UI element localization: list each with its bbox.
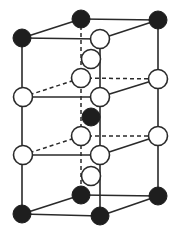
atom-dark-top-front-left bbox=[13, 29, 31, 47]
atom-light-interior-upper bbox=[82, 50, 101, 69]
atom-light-lower-back-mid bbox=[72, 127, 91, 146]
atom-light-interior-lower bbox=[82, 167, 101, 186]
bond-top-front-left-to-top-front-mid bbox=[22, 38, 100, 39]
atom-light-lower-left bbox=[14, 146, 33, 165]
crystal-structure-diagram bbox=[0, 0, 180, 236]
atom-dark-bottom-back-mid bbox=[72, 186, 90, 204]
atom-dark-bottom-back-right bbox=[149, 187, 167, 205]
atom-dark-center bbox=[82, 108, 100, 126]
atoms bbox=[13, 10, 168, 225]
bond-top-back-mid-to-top-back-right bbox=[81, 19, 158, 20]
atom-light-upper-front-mid bbox=[91, 88, 110, 107]
atom-dark-bottom-front-mid bbox=[91, 207, 109, 225]
atom-light-upper-left bbox=[14, 88, 33, 107]
atom-light-lower-front-mid bbox=[91, 146, 110, 165]
atom-dark-top-back-mid bbox=[72, 10, 90, 28]
atom-light-top-front-mid bbox=[91, 30, 110, 49]
bond-upper-back-mid-to-upper-back-right bbox=[81, 78, 158, 79]
bond-bottom-back-mid-to-bottom-back-right bbox=[81, 195, 158, 196]
atom-dark-top-back-right bbox=[149, 11, 167, 29]
bond-bottom-front-left-to-bottom-front-mid bbox=[22, 214, 100, 216]
atom-dark-bottom-front-left bbox=[13, 205, 31, 223]
atom-light-lower-back-right bbox=[149, 127, 168, 146]
atom-light-upper-back-mid bbox=[72, 69, 91, 88]
atom-light-upper-back-right bbox=[149, 70, 168, 89]
